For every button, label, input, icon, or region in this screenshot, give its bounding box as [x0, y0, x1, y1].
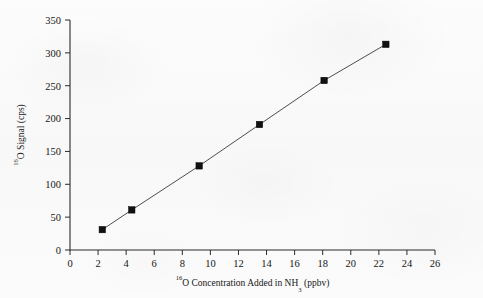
- x-tick-label: 2: [95, 258, 100, 269]
- x-tick-label: 18: [317, 258, 328, 269]
- data-point-marker[interactable]: [99, 226, 105, 232]
- line-chart-plot: 0501001502002503003500246810121416182022…: [0, 0, 483, 298]
- y-tick-label: 100: [45, 179, 61, 190]
- x-tick-label: 8: [180, 258, 185, 269]
- y-tick-label: 150: [45, 146, 61, 157]
- y-tick-label: 50: [51, 212, 62, 223]
- x-tick-label: 22: [374, 258, 385, 269]
- data-point-marker[interactable]: [321, 77, 327, 83]
- data-point-marker[interactable]: [196, 163, 202, 169]
- x-tick-label: 4: [124, 258, 130, 269]
- y-tick-label: 0: [56, 245, 61, 256]
- x-tick-label: 10: [205, 258, 216, 269]
- x-tick-label: 24: [402, 258, 413, 269]
- x-tick-label: 16: [289, 258, 300, 269]
- y-tick-label: 250: [45, 81, 61, 92]
- y-tick-label: 200: [45, 113, 61, 124]
- x-tick-label: 12: [233, 258, 244, 269]
- chart-figure: 0501001502002503003500246810121416182022…: [0, 0, 483, 298]
- y-tick-label: 350: [45, 15, 61, 26]
- data-point-marker[interactable]: [256, 121, 262, 127]
- x-axis-title: 16O Concentration Added in NH3 (ppbv): [176, 273, 330, 293]
- x-tick-label: 20: [346, 258, 357, 269]
- x-tick-label: 0: [67, 258, 72, 269]
- x-tick-label: 6: [152, 258, 157, 269]
- x-tick-label: 14: [261, 258, 272, 269]
- y-tick-label: 300: [45, 48, 61, 59]
- series-line: [102, 44, 386, 229]
- data-point-marker[interactable]: [129, 207, 135, 213]
- x-tick-label: 26: [430, 258, 441, 269]
- axis-spine: [70, 20, 435, 250]
- y-axis-title: 16O Signal (cps): [11, 104, 27, 165]
- data-point-marker[interactable]: [383, 41, 389, 47]
